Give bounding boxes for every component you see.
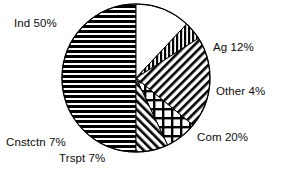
pie-label-ag: Ag 12% — [213, 41, 254, 54]
pie-label-com: Com 20% — [197, 131, 248, 144]
pie-label-ind: Ind 50% — [14, 17, 57, 30]
pie-slice-ind — [62, 4, 136, 152]
pie-label-trspt: Trspt 7% — [59, 152, 105, 165]
pie-label-other: Other 4% — [216, 85, 265, 98]
pie-slices — [62, 4, 210, 152]
pie-label-cnstctn: Cnstctn 7% — [6, 136, 66, 149]
pie-chart: Ind 50% Ag 12% Other 4% Com 20% Cnstctn … — [0, 0, 283, 175]
